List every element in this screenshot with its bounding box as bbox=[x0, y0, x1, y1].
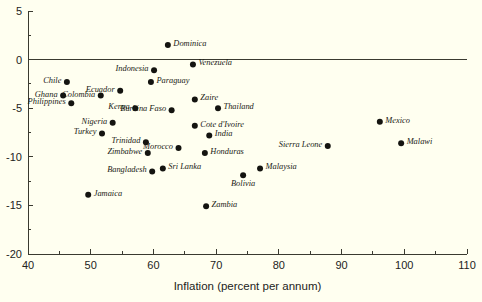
data-point-label: Nigeria bbox=[81, 117, 108, 126]
x-tick-label: 100 bbox=[395, 259, 413, 271]
data-point-marker bbox=[148, 79, 154, 85]
data-point-marker bbox=[190, 61, 196, 67]
data-point-marker bbox=[117, 88, 123, 94]
data-point-label: Indonesia bbox=[115, 64, 149, 73]
data-point-label: Paraguay bbox=[155, 76, 189, 85]
data-point-label: Zaire bbox=[200, 93, 218, 102]
data-point-marker bbox=[206, 132, 212, 138]
data-point-label: Zimbabwe bbox=[107, 147, 142, 156]
data-point-marker bbox=[202, 150, 208, 156]
data-point-marker bbox=[110, 120, 116, 126]
data-point-label: Sierra Leone bbox=[279, 140, 323, 149]
data-point-label: Bolivia bbox=[231, 179, 255, 188]
data-point-marker bbox=[64, 79, 70, 85]
data-point-label: Venezuela bbox=[198, 58, 232, 67]
data-point-marker bbox=[145, 150, 151, 156]
data-point-marker bbox=[215, 105, 221, 111]
data-point-marker bbox=[377, 119, 383, 125]
data-point-label: Turkey bbox=[74, 127, 97, 136]
y-tick-label: 0 bbox=[16, 54, 22, 66]
x-axis-title: Inflation (percent per annum) bbox=[174, 280, 322, 292]
data-point-label: Zambia bbox=[212, 200, 238, 209]
data-point-label: India bbox=[214, 129, 233, 138]
x-tick-label: 110 bbox=[458, 259, 476, 271]
data-point-marker bbox=[169, 107, 175, 113]
data-point-label: Mexico bbox=[384, 116, 410, 125]
data-point-label: Chile bbox=[43, 76, 61, 85]
data-point-marker bbox=[85, 192, 91, 198]
data-point-marker bbox=[325, 143, 331, 149]
data-point-label: Jamaica bbox=[94, 189, 122, 198]
x-tick-label: 50 bbox=[85, 259, 97, 271]
data-point-marker bbox=[240, 172, 246, 178]
data-point-label: Thailand bbox=[224, 102, 255, 111]
data-point-marker bbox=[257, 165, 263, 171]
data-point-marker bbox=[98, 93, 104, 99]
data-point-marker bbox=[149, 168, 155, 174]
data-point-marker bbox=[398, 140, 404, 146]
data-point-label: Malaysia bbox=[265, 162, 297, 171]
y-tick-label: -15 bbox=[6, 199, 22, 211]
data-point-marker bbox=[165, 42, 171, 48]
y-tick-label: -10 bbox=[6, 151, 22, 163]
x-tick-label: 40 bbox=[22, 259, 34, 271]
data-point-label: Philippines bbox=[27, 97, 66, 106]
data-point-label: Burkina Faso bbox=[120, 104, 166, 113]
scatter-chart-figure: 50-5-10-15-20405060708090100110Inflation… bbox=[0, 0, 482, 302]
data-point-marker bbox=[68, 100, 74, 106]
data-point-marker bbox=[151, 67, 157, 73]
data-point-label: Colombia bbox=[62, 90, 95, 99]
data-point-label: Malawi bbox=[406, 137, 433, 146]
data-point-label: Trinidad bbox=[112, 136, 142, 145]
data-point-label: Cote d'Ivoire bbox=[200, 120, 244, 129]
x-tick-label: 60 bbox=[147, 259, 159, 271]
plot-area: 50-5-10-15-20405060708090100110Inflation… bbox=[0, 0, 482, 302]
y-tick-label: -20 bbox=[6, 248, 22, 260]
x-tick-label: 80 bbox=[273, 259, 285, 271]
data-point-marker bbox=[192, 123, 198, 129]
data-point-marker bbox=[192, 96, 198, 102]
data-point-marker bbox=[99, 130, 105, 136]
x-tick-label: 90 bbox=[335, 259, 347, 271]
data-point-marker bbox=[176, 145, 182, 151]
data-point-label: Morocco bbox=[142, 142, 173, 151]
y-tick-label: 5 bbox=[16, 5, 22, 17]
x-tick-label: 70 bbox=[210, 259, 222, 271]
data-point-label: Sri Lanka bbox=[168, 162, 201, 171]
data-point-label: Bangladesh bbox=[107, 165, 147, 174]
data-point-marker bbox=[160, 165, 166, 171]
data-point-marker bbox=[203, 203, 209, 209]
y-tick-label: -5 bbox=[12, 102, 22, 114]
data-point-label: Dominica bbox=[172, 39, 206, 48]
data-point-label: Honduras bbox=[209, 147, 244, 156]
